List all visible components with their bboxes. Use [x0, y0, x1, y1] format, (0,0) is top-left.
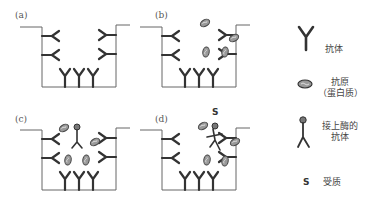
- panel-label-a: (a): [15, 10, 27, 20]
- legend-substrate-symbol: S: [303, 177, 309, 187]
- elisa-diagram: [0, 0, 367, 206]
- legend-enzyme-antibody-icon: [298, 117, 309, 147]
- panel-b: [140, 18, 250, 87]
- legend-enzyme-antibody-line1: 接上酶的: [318, 121, 362, 132]
- legend-enzyme-antibody-line2: 抗体: [318, 132, 362, 143]
- panel-label-c: (c): [15, 114, 27, 124]
- legend-antigen-line2: （蛋白质）: [318, 88, 362, 99]
- panel-d: [140, 121, 250, 190]
- legend-enzyme-antibody-label: 接上酶的 抗体: [318, 121, 362, 143]
- legend-antigen-label: 抗原 （蛋白质）: [318, 77, 362, 99]
- panel-label-d: (d): [155, 114, 168, 124]
- legend-antibody-label: 抗体: [325, 44, 343, 55]
- panel-a: [20, 25, 130, 87]
- panel-label-b: (b): [155, 10, 168, 20]
- legend-antibody-icon: [299, 27, 313, 50]
- panel-c: [20, 123, 130, 190]
- substrate-mark: S: [212, 107, 218, 117]
- legend-antigen-line1: 抗原: [318, 77, 362, 88]
- legend-antigen-icon: [298, 80, 312, 88]
- legend-substrate-label: 受质: [323, 177, 341, 188]
